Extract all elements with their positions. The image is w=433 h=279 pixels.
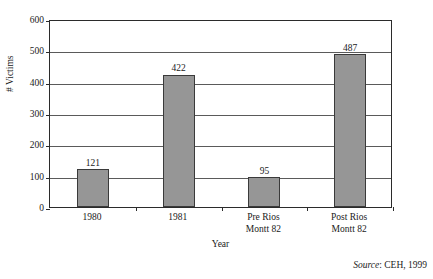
y-tick-mark <box>46 146 50 147</box>
bar-value-label: 121 <box>86 159 100 169</box>
bar: 487 <box>334 54 366 207</box>
x-category-label: 1980 <box>49 212 135 224</box>
bar: 95 <box>248 177 280 207</box>
y-tick-mark <box>46 21 50 22</box>
y-tick-label: 500 <box>30 48 44 58</box>
x-tick-mark <box>136 207 137 211</box>
y-tick-mark <box>46 84 50 85</box>
source-value: : CEH, 1999 <box>379 260 427 270</box>
bar-value-label: 422 <box>172 64 186 74</box>
chart-page: # Victims 0100200300400500600 1214229548… <box>0 0 433 279</box>
bar-value-label: 95 <box>260 167 270 177</box>
y-tick-mark <box>46 209 50 210</box>
x-tick-mark <box>393 207 394 211</box>
bar-value-label: 487 <box>343 44 357 54</box>
bar: 422 <box>163 75 195 207</box>
x-category-label: Pre Rios Montt 82 <box>221 212 307 235</box>
y-tick-label: 200 <box>30 142 44 152</box>
x-category-label: Post Rios Montt 82 <box>306 212 392 235</box>
y-tick-mark <box>46 52 50 53</box>
bar: 121 <box>77 169 109 207</box>
y-tick-mark <box>46 115 50 116</box>
x-tick-mark <box>222 207 223 211</box>
y-tick-label: 400 <box>30 79 44 89</box>
y-tick-label: 0 <box>39 204 44 214</box>
x-axis-title: Year <box>49 240 392 250</box>
gridline <box>50 52 391 53</box>
x-tick-mark <box>307 207 308 211</box>
y-tick-label: 600 <box>30 16 44 26</box>
y-tick-label: 300 <box>30 110 44 120</box>
x-category-label: 1981 <box>135 212 221 224</box>
y-axis-title: # Victims <box>6 56 16 92</box>
y-tick-mark <box>46 178 50 179</box>
source-label: Source <box>353 260 379 270</box>
source-note: Source: CEH, 1999 <box>353 261 427 271</box>
y-tick-label: 100 <box>30 173 44 183</box>
plot-area: 0100200300400500600 12142295487 <box>49 20 392 208</box>
